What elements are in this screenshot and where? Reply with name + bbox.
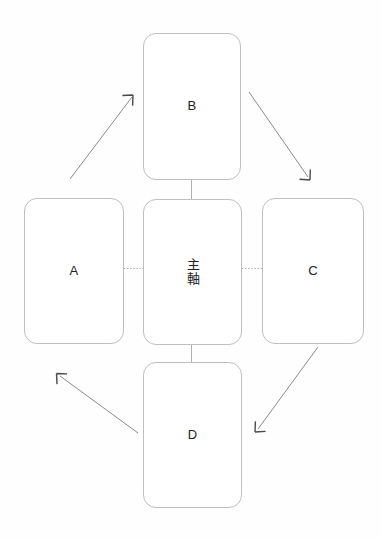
arrow-c-to-d — [255, 347, 318, 432]
node-left-a-label: A — [70, 264, 79, 279]
node-right-c[interactable]: C — [262, 198, 364, 344]
node-right-c-label: C — [308, 264, 318, 279]
node-center-main-axis[interactable]: 主軸 — [143, 199, 242, 345]
node-bottom-d-label: D — [188, 428, 198, 443]
node-center-label: 主軸 — [185, 258, 200, 286]
node-top-b[interactable]: B — [143, 33, 241, 180]
node-top-b-label: B — [188, 99, 197, 114]
arrow-a-to-b — [70, 95, 133, 179]
arrow-d-to-a — [57, 374, 139, 434]
arrow-b-to-c — [249, 92, 310, 180]
diagram-canvas: B A 主軸 C D — [0, 0, 382, 538]
node-bottom-d[interactable]: D — [143, 362, 242, 508]
node-left-a[interactable]: A — [24, 198, 124, 344]
